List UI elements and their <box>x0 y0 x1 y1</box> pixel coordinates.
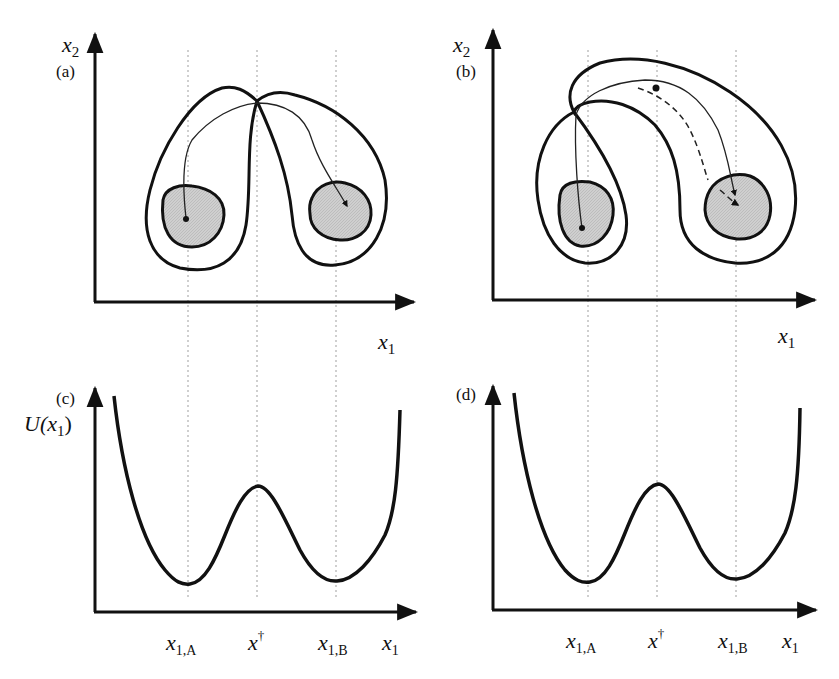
y-axis-label: U(x1) <box>24 411 72 439</box>
x-axis-label: x1 <box>381 630 399 658</box>
state-a-region <box>162 186 224 247</box>
panel-tag-d: (d) <box>456 385 476 404</box>
tick-x1a: x1,A <box>165 630 197 658</box>
basin-boundary-b <box>257 92 386 265</box>
tick-x-dagger: x† <box>247 628 265 655</box>
x-axis-label: x1 <box>377 329 395 357</box>
saddle-point <box>653 85 660 92</box>
state-b-region <box>310 182 371 240</box>
panel-a: x2 (a) x1 <box>56 32 414 357</box>
double-well-figure: x2 (a) x1 x2 (b) x1 (c) U(x1) x1,A x† x1… <box>0 0 839 679</box>
tick-x1b: x1,B <box>717 628 748 656</box>
y-axis-label: x2 <box>452 32 470 60</box>
state-b-region <box>705 175 771 239</box>
y-axis-label: x2 <box>61 32 79 60</box>
x-axis-label: x1 <box>781 628 799 656</box>
start-point <box>183 216 189 222</box>
panel-tag-a: (a) <box>56 62 75 81</box>
tick-x1a: x1,A <box>565 628 597 656</box>
panel-tag-c: (c) <box>56 389 75 408</box>
panel-b: x2 (b) x1 <box>452 30 815 351</box>
panel-c: (c) U(x1) x1,A x† x1,B x1 <box>24 388 416 658</box>
tick-x1b: x1,B <box>317 630 348 658</box>
panel-tag-b: (b) <box>456 62 476 81</box>
x-axis-label: x1 <box>777 323 795 351</box>
tick-x-dagger: x† <box>647 626 665 653</box>
state-a-region <box>559 181 613 246</box>
panel-d: (d) x1,A x† x1,B x1 <box>456 385 816 656</box>
start-point <box>579 225 585 231</box>
